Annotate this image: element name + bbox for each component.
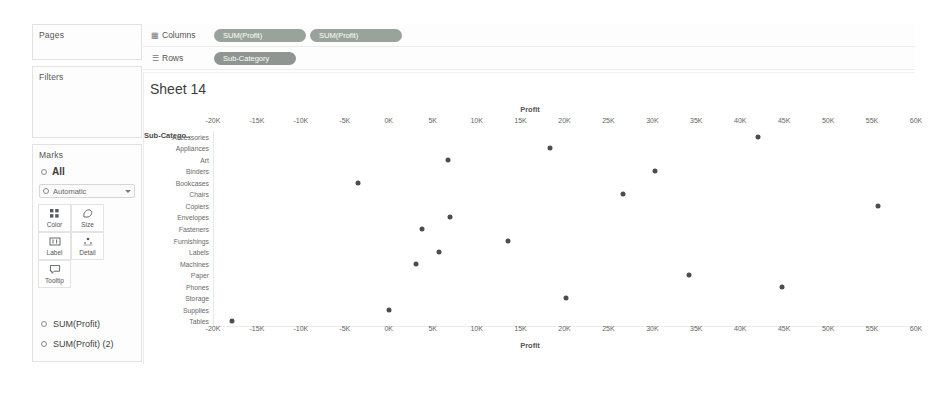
mark-point[interactable] [505, 238, 510, 243]
row-label: Furnishings [174, 237, 209, 244]
row-label: Supplies [183, 306, 209, 313]
shelf-area: ▦ Columns SUM(Profit) SUM(Profit) ☰ Rows… [143, 24, 915, 70]
circle-icon [43, 188, 49, 194]
pages-card[interactable]: Pages [32, 24, 142, 60]
rows-icon: ☰ [148, 54, 162, 63]
mark-point[interactable] [386, 307, 391, 312]
x-tick-top: 0K [384, 117, 393, 124]
x-tick-bottom: 0K [384, 325, 393, 332]
pages-card-title: Pages [33, 25, 141, 40]
x-axis-top[interactable]: -20K-15K-10K-5K0K5K10K15K20K25K30K35K40K… [144, 117, 916, 131]
x-tick-top: 40K [734, 117, 746, 124]
x-tick-top: -15K [250, 117, 265, 124]
color-icon [49, 208, 60, 219]
mark-point[interactable] [876, 203, 881, 208]
x-tick-bottom: 25K [602, 325, 614, 332]
circle-icon [41, 341, 47, 347]
x-tick-bottom: 45K [778, 325, 790, 332]
x-tick-top: 45K [778, 117, 790, 124]
rows-shelf[interactable]: ☰ Rows Sub-Category [143, 47, 915, 70]
x-tick-bottom: 30K [646, 325, 658, 332]
x-tick-bottom: 20K [558, 325, 570, 332]
mark-point[interactable] [653, 169, 658, 174]
mark-point[interactable] [414, 261, 419, 266]
columns-icon: ▦ [148, 31, 162, 40]
circle-icon [41, 169, 47, 175]
row-label: Chairs [189, 191, 209, 198]
x-tick-bottom: -15K [250, 325, 265, 332]
label-icon [49, 236, 61, 247]
row-label: Bookcases [176, 179, 209, 186]
x-tick-bottom: 40K [734, 325, 746, 332]
marks-card-sum-profit[interactable]: SUM(Profit) [33, 314, 141, 334]
scatter-plot-area[interactable] [213, 131, 916, 327]
row-label: Paper [191, 272, 209, 279]
x-tick-bottom: -5K [339, 325, 350, 332]
x-tick-bottom: 60K [910, 325, 922, 332]
mark-type-dropdown[interactable]: Automatic [39, 184, 135, 198]
label-button[interactable]: Label [38, 232, 71, 260]
x-axis-bottom[interactable]: -20K-15K-10K-5K0K5K10K15K20K25K30K35K40K… [144, 325, 916, 339]
rows-shelf-label: Rows [162, 53, 214, 63]
columns-shelf[interactable]: ▦ Columns SUM(Profit) SUM(Profit) [143, 24, 915, 47]
x-tick-bottom: -20K [206, 325, 221, 332]
mark-point[interactable] [779, 284, 784, 289]
row-label: Storage [185, 295, 209, 302]
mark-point[interactable] [564, 296, 569, 301]
detail-button[interactable]: Detail [71, 232, 104, 260]
x-tick-top: -10K [293, 117, 308, 124]
row-label: Accessories [172, 133, 209, 140]
x-tick-top: -5K [339, 117, 350, 124]
row-label: Envelopes [177, 214, 209, 221]
filters-card-title: Filters [33, 67, 141, 82]
x-tick-top: 25K [602, 117, 614, 124]
axis-title-bottom: Profit [144, 341, 916, 350]
mark-point[interactable] [448, 215, 453, 220]
marks-property-grid: Color Size [38, 204, 136, 288]
size-button-label: Size [81, 221, 94, 228]
chevron-down-icon [125, 190, 131, 193]
mark-point[interactable] [547, 146, 552, 151]
row-label: Copiers [186, 202, 209, 209]
x-tick-top: 30K [646, 117, 658, 124]
color-button[interactable]: Color [38, 204, 71, 232]
size-button[interactable]: Size [71, 204, 104, 232]
marks-card-sum-profit-2[interactable]: SUM(Profit) (2) [33, 334, 141, 354]
mark-point[interactable] [230, 319, 235, 324]
tableau-worksheet: Pages Filters Marks All Automatic [0, 0, 948, 410]
x-tick-bottom: 50K [822, 325, 834, 332]
marks-all-row[interactable]: All [33, 160, 141, 177]
detail-icon [82, 236, 94, 247]
marks-card-label: SUM(Profit) (2) [53, 339, 114, 349]
mark-point[interactable] [445, 157, 450, 162]
marks-card[interactable]: Marks All Automatic [32, 144, 142, 362]
mark-point[interactable] [356, 180, 361, 185]
mark-point[interactable] [436, 250, 441, 255]
x-tick-top: 50K [822, 117, 834, 124]
pill-sum-profit-2[interactable]: SUM(Profit) [310, 29, 402, 42]
tooltip-button[interactable]: Tooltip [38, 260, 71, 288]
pill-sub-category[interactable]: Sub-Category [214, 52, 296, 65]
row-label: Binders [186, 168, 209, 175]
x-tick-bottom: 55K [866, 325, 878, 332]
x-tick-top: -20K [206, 117, 221, 124]
pill-sum-profit-1[interactable]: SUM(Profit) [214, 29, 306, 42]
color-button-label: Color [47, 221, 63, 228]
filters-card[interactable]: Filters [32, 66, 142, 138]
worksheet-view: Sheet 14 Profit -20K-15K-10K-5K0K5K10K15… [143, 72, 915, 364]
row-label: Labels [189, 249, 209, 256]
x-tick-top: 20K [558, 117, 570, 124]
row-header: Sub-Catego.. AccessoriesAppliancesArtBin… [144, 131, 213, 327]
marks-cards-list: SUM(Profit) SUM(Profit) (2) [33, 314, 141, 354]
tooltip-button-label: Tooltip [45, 277, 64, 284]
mark-point[interactable] [755, 134, 760, 139]
marks-card-title: Marks [33, 145, 141, 160]
x-tick-bottom: 5K [428, 325, 437, 332]
mark-point[interactable] [621, 192, 626, 197]
mark-point[interactable] [420, 227, 425, 232]
mark-point[interactable] [687, 273, 692, 278]
x-tick-bottom: 10K [470, 325, 482, 332]
mark-type-value: Automatic [53, 187, 121, 196]
row-label: Machines [180, 260, 209, 267]
x-tick-bottom: 35K [690, 325, 702, 332]
